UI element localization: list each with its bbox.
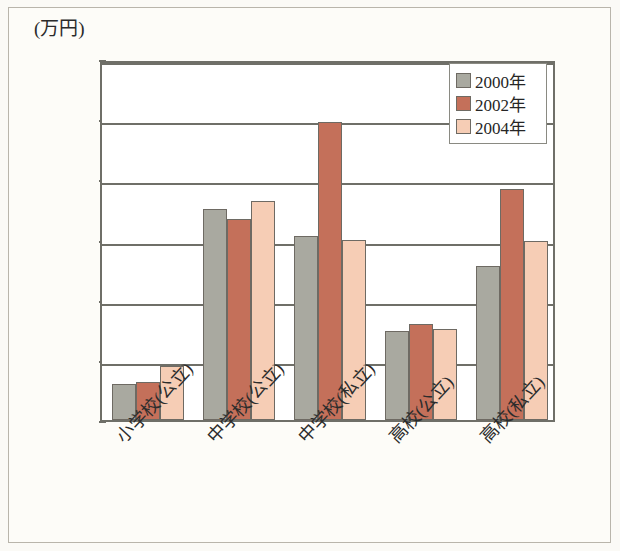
legend-label: 2004年 [475, 114, 526, 139]
bar [294, 236, 318, 420]
legend-item: 2004年 [456, 115, 540, 138]
bar [318, 122, 342, 420]
legend-swatch-2000-icon [456, 73, 471, 88]
bar [476, 266, 500, 420]
y-axis-tick-labels: 5101520253035 [0, 0, 100, 500]
legend-label: 2000年 [475, 68, 526, 93]
legend-item: 2002年 [456, 92, 540, 115]
chart-page: (万円) 5101520253035 小学校(公立)中学校(公立)中学校(私立)… [0, 0, 620, 551]
bar [203, 209, 227, 420]
legend-swatch-2002-icon [456, 96, 471, 111]
legend-swatch-2004-icon [456, 119, 471, 134]
legend-item: 2000年 [456, 69, 540, 92]
chart-legend: 2000年2002年2004年 [449, 63, 547, 144]
legend-label: 2002年 [475, 91, 526, 116]
